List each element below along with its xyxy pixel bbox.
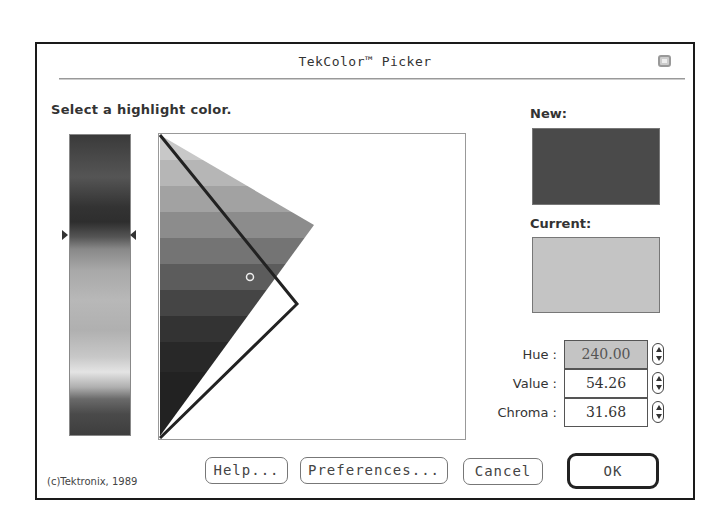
value-stepper-icon[interactable]: [652, 372, 664, 394]
value-chroma-plane[interactable]: [158, 133, 466, 440]
hue-label: Hue :: [447, 347, 557, 362]
hue-field[interactable]: 240.00: [564, 340, 648, 369]
cancel-button[interactable]: Cancel: [463, 458, 543, 485]
help-button[interactable]: Help...: [205, 457, 288, 484]
prompt-text: Select a highlight color.: [51, 102, 232, 117]
new-color-swatch: [532, 128, 660, 205]
dialog-title: TekColor™ Picker: [37, 54, 693, 69]
hue-stepper-icon[interactable]: [652, 343, 664, 365]
hue-slider[interactable]: [69, 134, 131, 436]
hue-marker-left-icon[interactable]: [62, 230, 68, 240]
ok-button[interactable]: OK: [567, 453, 659, 489]
copyright-text: (c)Tektronix, 1989: [47, 476, 137, 487]
chroma-label: Chroma :: [447, 405, 557, 420]
current-color-swatch: [532, 237, 660, 313]
hue-marker-right-icon[interactable]: [130, 230, 136, 240]
value-field[interactable]: 54.26: [564, 369, 648, 398]
current-label: Current:: [530, 216, 591, 231]
tekcolor-picker-dialog: TekColor™ Picker Select a highlight colo…: [35, 42, 695, 500]
preferences-button[interactable]: Preferences...: [300, 457, 448, 484]
gamut-triangle: [159, 134, 466, 440]
chroma-stepper-icon[interactable]: [652, 401, 664, 423]
title-divider: [59, 78, 685, 80]
chroma-field[interactable]: 31.68: [564, 398, 648, 427]
value-label: Value :: [447, 376, 557, 391]
new-label: New:: [530, 106, 567, 121]
close-box-icon[interactable]: [658, 55, 671, 67]
